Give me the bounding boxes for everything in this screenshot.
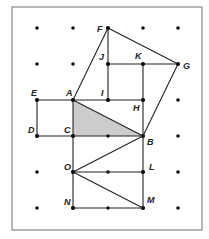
label-o: O [64,162,71,172]
grid-dot [176,206,180,210]
segments [37,28,178,208]
point-m [141,206,145,210]
point-l [141,170,145,174]
label-i: I [101,88,104,98]
label-d: D [28,125,35,135]
label-n: N [64,197,71,207]
label-h: H [133,103,140,113]
point-labels: FGJKEAIHDCBOLNM [28,24,190,207]
grid-dot [35,62,39,66]
grid-dot [141,26,145,30]
label-k: K [135,51,143,61]
label-f: F [97,24,103,34]
grid-dot [35,26,39,30]
point-a [71,98,75,102]
grid-dot [71,62,75,66]
grid-dot [176,26,180,30]
label-j: J [99,52,105,62]
point-b [141,134,145,138]
diagram-canvas: FGJKEAIHDCBOLNM [0,0,209,239]
label-c: C [64,125,71,135]
point-i [106,98,110,102]
point-h [141,98,145,102]
label-m: M [147,195,155,205]
segment-om [73,172,143,208]
grid-dot [71,26,75,30]
label-b: B [147,137,154,147]
segment-fg [108,28,178,64]
segment-gb [143,64,178,136]
point-o [71,170,75,174]
grid-dot [176,98,180,102]
grid-dot [35,170,39,174]
point-f [106,26,110,30]
point-j [106,62,110,66]
label-e: E [31,88,38,98]
point-k [141,62,145,66]
grid-dot [35,206,39,210]
segment-ob [73,136,143,172]
point-g [176,62,180,66]
label-l: L [149,162,155,172]
point-d [35,134,39,138]
point-c [71,134,75,138]
label-g: G [183,61,190,71]
grid-dot [176,134,180,138]
label-a: A [65,88,73,98]
grid-dot [176,170,180,174]
point-e [35,98,39,102]
point-n [71,206,75,210]
